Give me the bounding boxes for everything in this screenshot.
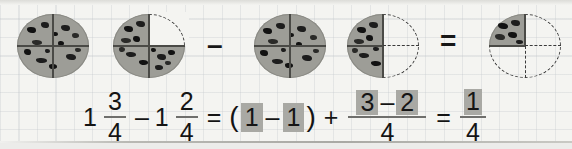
- operator-minus-1: –: [135, 103, 149, 132]
- quarter-divider-horizontal: [113, 45, 185, 47]
- term3-numerator-left-highlight: 3: [356, 90, 378, 115]
- term1-numerator: 3: [106, 89, 124, 115]
- term1-whole: 1: [83, 103, 101, 132]
- term2-numerator: 2: [178, 89, 196, 115]
- quarter-divider-vertical-dashed: [525, 46, 526, 78]
- figure-cookie-3-whole: [254, 14, 326, 78]
- term3-numerator-right-highlight: 2: [396, 90, 418, 115]
- page-bottom-edge: [0, 143, 572, 149]
- cookie-body: [489, 14, 525, 46]
- operator-plus: +: [324, 103, 339, 132]
- figure-cookie-1-whole: [17, 14, 89, 78]
- figure-operator-minus: –: [207, 31, 223, 59]
- term3-fraction: 3 – 2 4: [348, 90, 426, 145]
- quarter-divider-horizontal-solid: [489, 45, 525, 47]
- figure-operator-equals: =: [440, 27, 456, 55]
- mixed-number-term-2: 1 2 4: [155, 89, 201, 145]
- result-fraction: 1 4: [460, 89, 486, 145]
- whole-group-left-highlight: 1: [241, 103, 263, 132]
- figure-cookie-2-three-quarters: [113, 14, 185, 78]
- page-top-edge: [0, 0, 572, 5]
- term1-fraction: 3 4: [104, 89, 126, 145]
- term2-fraction: 2 4: [176, 89, 198, 145]
- quarter-divider-horizontal: [254, 45, 326, 47]
- worksheet-page: –: [0, 0, 572, 149]
- equation-row: 1 3 4 – 1 2 4 = ( 1 – 1 ) +: [0, 92, 572, 142]
- quarter-divider-vertical-solid: [524, 14, 526, 46]
- result-numerator-highlight: 1: [464, 89, 482, 115]
- quarter-divider-horizontal-dashed: [525, 45, 561, 46]
- close-paren: ): [306, 101, 315, 133]
- term3-numerator-operator: –: [380, 90, 394, 115]
- quarter-divider-horizontal-solid: [347, 45, 383, 47]
- operator-equals-2: =: [436, 103, 451, 132]
- operator-minus-group: –: [266, 103, 280, 132]
- operator-equals-1: =: [207, 103, 222, 132]
- open-paren: (: [229, 101, 238, 133]
- quarter-divider-horizontal-dashed: [383, 45, 419, 46]
- figure-cookie-4-two-quarters: [347, 14, 419, 78]
- term3-numerator-expression: 3 – 2: [356, 90, 418, 115]
- whole-group-right-highlight: 1: [283, 103, 305, 132]
- figure-cookie-5-one-quarter: [489, 14, 561, 78]
- mixed-number-term-1: 1 3 4: [83, 89, 129, 145]
- quarter-divider-horizontal: [17, 45, 89, 47]
- term2-whole: 1: [155, 103, 173, 132]
